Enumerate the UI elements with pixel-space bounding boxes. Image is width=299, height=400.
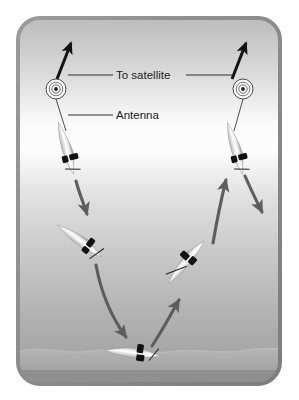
float-fin-left (136, 344, 144, 354)
label-to-satellite: To satellite (116, 69, 170, 81)
float-cycle-diagram: To satellite Antenna (0, 0, 299, 400)
figure-root: To satellite Antenna (0, 0, 299, 400)
antenna-icon-right (233, 79, 253, 99)
antenna-icon-left (46, 79, 66, 99)
float-fin-right (136, 354, 145, 362)
label-antenna: Antenna (116, 109, 159, 121)
